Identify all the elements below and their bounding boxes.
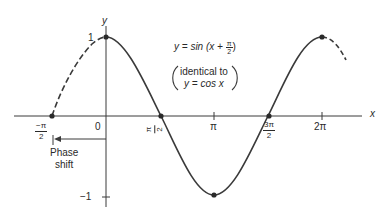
x-tick-pi: π [210,122,217,132]
point-neg-half-pi [49,113,54,118]
y-axis-label: y [102,16,107,26]
phase-shift-label: Phase shift [50,147,78,170]
y-tick-neg1: −1 [80,192,91,202]
sine-phase-shift-chart [0,0,388,219]
point-three-half-pi [266,113,271,118]
arrowhead-icon [54,136,61,142]
origin-label: 0 [95,122,101,132]
point-2pi-max [319,34,324,39]
equation-label: y = sin (x + π2) [174,40,236,55]
y-tick-1: 1 [88,33,94,43]
point-pi-min [211,192,216,197]
x-tick-half-pi: π 2 [145,126,164,134]
x-tick-three-half-pi: 3π 2 [263,121,275,140]
left-paren [173,66,178,90]
x-axis-label: x [370,109,375,119]
x-tick-neg-half-pi: −π 2 [35,122,47,141]
point-0-max [103,34,108,39]
dashed-curve-left [52,37,106,116]
identity-note: identical to y = cos x [180,66,228,89]
x-tick-2pi: 2π [314,122,326,132]
point-half-pi [158,113,163,118]
right-paren [232,66,237,90]
dashed-curve-right [322,37,346,60]
